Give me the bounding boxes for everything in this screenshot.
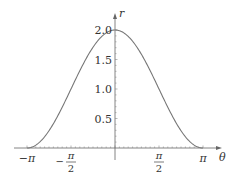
x-axis-arrow-icon [216, 146, 222, 150]
x-tick-labels: −ππ2−π2π [19, 150, 208, 174]
x-tick-label-fraction: π2− [56, 150, 76, 174]
svg-text:π: π [67, 150, 75, 161]
y-axis-arrow-icon [113, 13, 117, 19]
y-tick-label: 0.5 [95, 113, 113, 126]
svg-text:π: π [155, 150, 163, 161]
y-axis-label: r [119, 7, 125, 20]
y-tick-label: 1.5 [95, 54, 113, 67]
svg-text:2: 2 [156, 163, 162, 174]
svg-text:−: − [56, 156, 64, 167]
x-axis [14, 146, 222, 151]
x-tick-label-fraction: π2 [154, 150, 164, 174]
y-tick-labels: 0.51.01.52.0 [95, 24, 113, 126]
y-axis [113, 13, 118, 160]
svg-text:2: 2 [68, 163, 74, 174]
x-tick-label: −π [19, 152, 36, 165]
x-tick-label: π [198, 152, 207, 165]
y-tick-label: 1.0 [95, 83, 113, 96]
x-axis-label: θ [219, 151, 226, 164]
y-tick-label: 2.0 [95, 24, 113, 37]
chart: 0.51.01.52.0 −ππ2−π2π r θ [0, 0, 239, 185]
